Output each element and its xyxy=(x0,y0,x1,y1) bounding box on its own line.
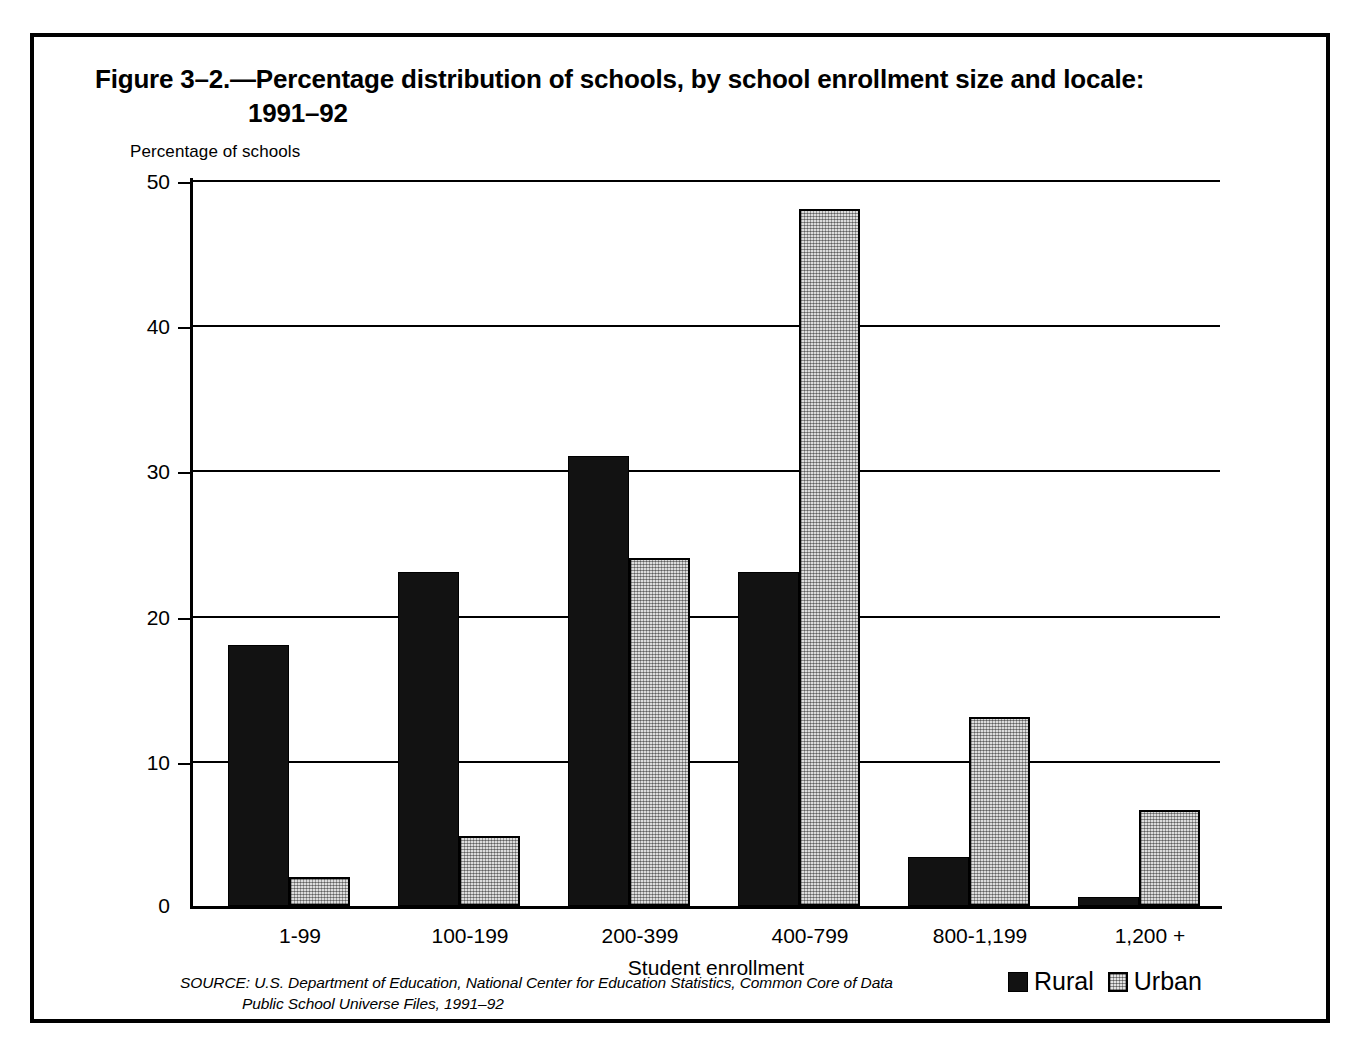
y-tick-mark-50 xyxy=(178,182,192,184)
source-note-line-1: SOURCE: U.S. Department of Education, Na… xyxy=(180,974,893,991)
chart-legend: Rural Urban xyxy=(1008,967,1202,996)
x-tick-label-800-1199: 800-1,199 xyxy=(933,924,1028,948)
bar-urban-800-1199[interactable] xyxy=(969,717,1030,906)
bar-urban-400-799[interactable] xyxy=(799,209,860,906)
legend-label-urban: Urban xyxy=(1134,967,1202,996)
y-tick-label-50: 50 xyxy=(147,170,170,194)
bar-group-1200-plus xyxy=(1078,180,1222,906)
bars-layer xyxy=(192,180,1220,906)
y-tick-mark-30 xyxy=(178,472,192,474)
bar-rural-200-399[interactable] xyxy=(568,456,629,906)
legend-swatch-rural-icon xyxy=(1008,972,1028,992)
bar-rural-1-99[interactable] xyxy=(228,645,289,906)
legend-item-rural: Rural xyxy=(1008,967,1094,996)
y-axis-title: Percentage of schools xyxy=(130,142,300,162)
bar-urban-200-399[interactable] xyxy=(629,558,690,907)
x-axis-line xyxy=(190,906,1222,909)
plot-area: 50 40 30 20 10 0 xyxy=(192,180,1220,906)
y-tick-mark-20 xyxy=(178,618,192,620)
bar-rural-800-1199[interactable] xyxy=(908,857,969,906)
bar-group-800-1199 xyxy=(908,180,1052,906)
figure-title-line-1: Figure 3–2.—Percentage distribution of s… xyxy=(95,64,1144,94)
bar-group-100-199 xyxy=(398,180,542,906)
bar-rural-100-199[interactable] xyxy=(398,572,459,906)
source-note: SOURCE: U.S. Department of Education, Na… xyxy=(180,972,893,1015)
legend-item-urban: Urban xyxy=(1108,967,1202,996)
y-tick-label-10: 10 xyxy=(147,750,170,774)
bar-rural-400-799[interactable] xyxy=(738,572,799,906)
legend-label-rural: Rural xyxy=(1034,967,1094,996)
source-note-line-2: Public School Universe Files, 1991–92 xyxy=(180,993,893,1014)
figure-title: Figure 3–2.—Percentage distribution of s… xyxy=(95,62,1285,131)
y-tick-label-40: 40 xyxy=(147,315,170,339)
bar-group-1-99 xyxy=(228,180,372,906)
bar-urban-100-199[interactable] xyxy=(459,836,520,906)
y-tick-mark-10 xyxy=(178,763,192,765)
y-tick-mark-40 xyxy=(178,327,192,329)
bar-group-400-799 xyxy=(738,180,882,906)
x-tick-label-1-99: 1-99 xyxy=(279,924,321,948)
x-tick-label-400-799: 400-799 xyxy=(771,924,848,948)
bar-urban-1200-plus[interactable] xyxy=(1139,810,1200,906)
figure-page: Figure 3–2.—Percentage distribution of s… xyxy=(0,0,1365,1058)
bar-rural-1200-plus[interactable] xyxy=(1078,897,1139,906)
y-tick-label-30: 30 xyxy=(147,460,170,484)
x-tick-label-1200-plus: 1,200 + xyxy=(1115,924,1186,948)
y-tick-label-20: 20 xyxy=(147,605,170,629)
figure-title-line-2: 1991–92 xyxy=(95,96,1285,130)
x-tick-label-200-399: 200-399 xyxy=(601,924,678,948)
x-tick-label-100-199: 100-199 xyxy=(431,924,508,948)
bar-group-200-399 xyxy=(568,180,712,906)
legend-swatch-urban-icon xyxy=(1108,972,1128,992)
bar-urban-1-99[interactable] xyxy=(289,877,350,906)
y-tick-label-0: 0 xyxy=(158,894,170,918)
